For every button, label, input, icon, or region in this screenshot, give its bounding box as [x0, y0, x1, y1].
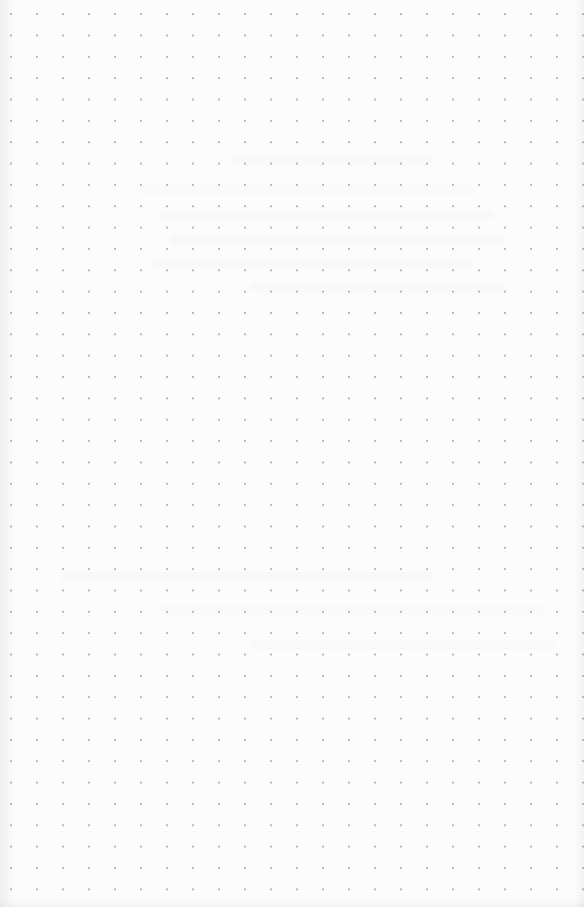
dot-grid-page [0, 0, 584, 907]
show-through-mark [60, 572, 434, 582]
show-through-mark [250, 282, 504, 292]
show-through-mark [160, 605, 544, 615]
show-through-mark [150, 258, 474, 268]
show-through-mark [230, 155, 434, 165]
show-through-mark [160, 210, 494, 220]
page-edge-shadow [0, 0, 584, 907]
show-through-mark [250, 640, 554, 650]
show-through-mark [170, 235, 504, 245]
show-through-mark [140, 185, 474, 195]
